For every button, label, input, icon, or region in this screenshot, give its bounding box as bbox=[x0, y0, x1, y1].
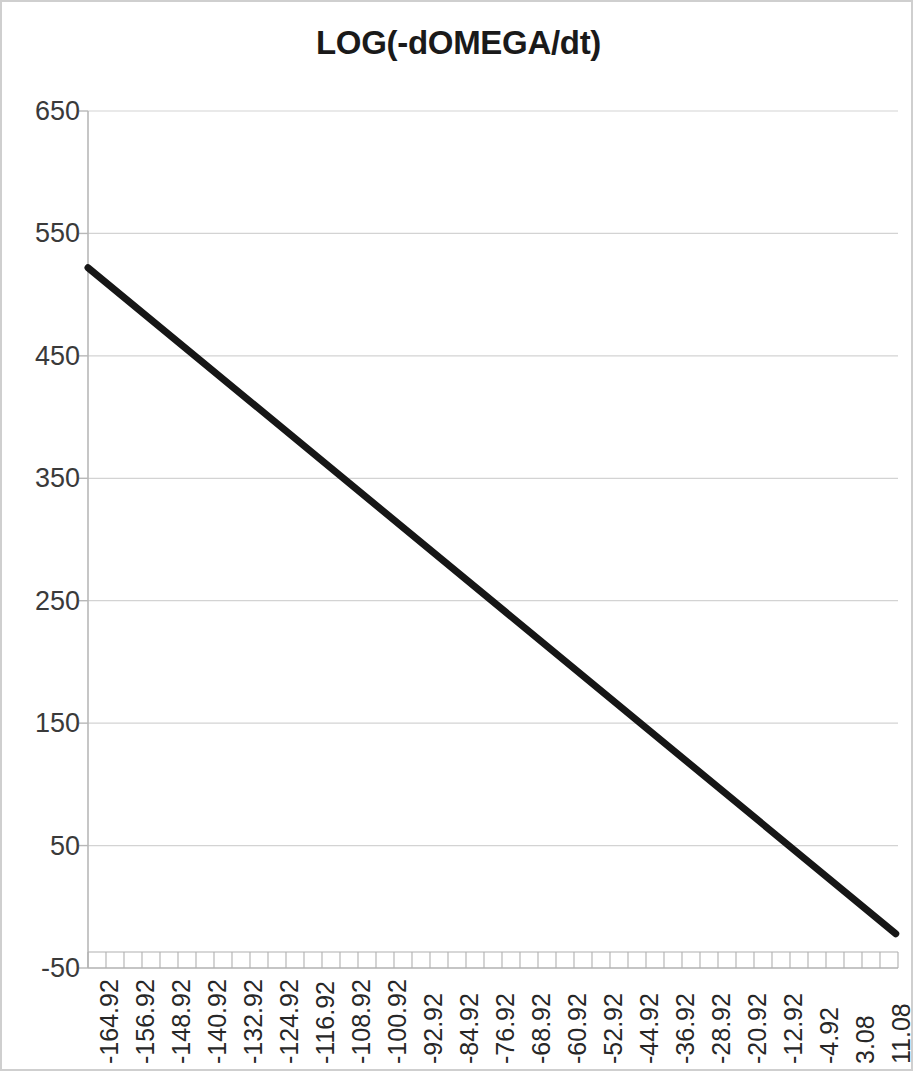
chart-plot-area bbox=[2, 2, 913, 1071]
y-axis-tick-label: 50 bbox=[10, 831, 80, 862]
major-ticks-group bbox=[79, 111, 88, 968]
y-axis-tick-label: 650 bbox=[10, 96, 80, 127]
y-axis-tick-label: 450 bbox=[10, 341, 80, 372]
chart-container: LOG(-dOMEGA/dt) 65055045035025015050-50 … bbox=[0, 0, 913, 1071]
minor-ticks-group bbox=[88, 952, 898, 968]
y-axis-tick-label: 250 bbox=[10, 586, 80, 617]
y-axis-tick-label: -50 bbox=[10, 953, 80, 984]
y-axis-tick-label: 550 bbox=[10, 218, 80, 249]
y-axis-tick-label: 150 bbox=[10, 708, 80, 739]
y-axis-tick-label: 350 bbox=[10, 463, 80, 494]
